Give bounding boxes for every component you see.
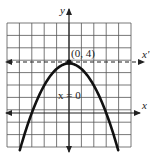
vertex-point (66, 59, 71, 64)
symmetry-label: x = 0 (58, 89, 81, 101)
vertex-label: (0, 4) (71, 47, 95, 60)
parabola-graph: y x x' (0, 4) x = 0 (0, 0, 152, 158)
x-prime-axis-label: x' (141, 48, 150, 60)
y-axis-label: y (59, 4, 65, 16)
x-axis-label: x (141, 99, 147, 111)
